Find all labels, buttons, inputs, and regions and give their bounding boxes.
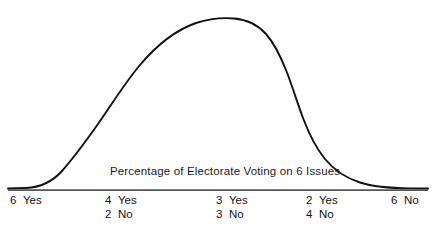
axis-label-number: 6 [10,193,19,207]
axis-label-number: 4 [306,207,315,221]
axis-label-word: Yes [229,193,248,207]
axis-label-line: 4Yes [105,193,137,207]
axis-label-6-yes: 6Yes [10,193,42,207]
axis-label-line: 2No [105,207,137,221]
axis-label-word: No [118,207,133,221]
axis-label-line: 2Yes [306,193,338,207]
axis-label-4-yes-2-no: 4Yes 2No [105,193,137,221]
axis-label-word: No [229,207,244,221]
axis-label-line: 3No [216,207,248,221]
axis-label-3-yes-3-no: 3Yes 3No [216,193,248,221]
axis-label-word: Yes [23,193,42,207]
bell-curve-figure: Percentage of Electorate Voting on 6 Iss… [0,0,436,232]
axis-label-line: 6No [391,193,419,207]
axis-label-2-yes-4-no: 2Yes 4No [306,193,338,221]
axis-label-word: No [404,193,419,207]
axis-label-number: 2 [306,193,315,207]
chart-caption: Percentage of Electorate Voting on 6 Iss… [110,165,340,177]
axis-label-word: Yes [118,193,137,207]
axis-label-number: 6 [391,193,400,207]
bell-curve-path [8,18,428,188]
axis-label-number: 2 [105,207,114,221]
axis-label-number: 4 [105,193,114,207]
axis-label-line: 4No [306,207,338,221]
axis-label-number: 3 [216,207,225,221]
axis-label-line: 3Yes [216,193,248,207]
axis-label-word: Yes [319,193,338,207]
axis-label-6-no: 6No [391,193,419,207]
x-axis-labels: 6Yes 4Yes 2No 3Yes 3No 2Yes 4No [0,193,436,231]
axis-label-word: No [319,207,334,221]
axis-label-line: 6Yes [10,193,42,207]
axis-label-number: 3 [216,193,225,207]
